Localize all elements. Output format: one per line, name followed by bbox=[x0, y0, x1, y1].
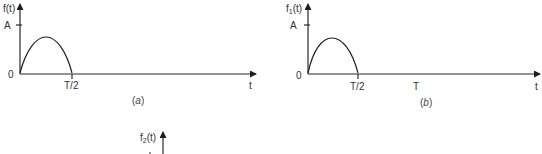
caption-a: (a) bbox=[132, 95, 144, 106]
ylabel-a: f(t) bbox=[3, 3, 15, 14]
plot-c-partial: f2(t) bbox=[140, 132, 163, 154]
plot-b: f1(t) A 0 T/2 T t (b) bbox=[286, 3, 540, 108]
ylabel-b: f1(t) bbox=[286, 3, 302, 15]
label-t-a: t bbox=[249, 80, 252, 91]
label-zero-a: 0 bbox=[8, 69, 14, 80]
curve-b bbox=[308, 38, 358, 73]
label-zero-b: 0 bbox=[296, 70, 302, 81]
label-A-b: A bbox=[290, 20, 297, 31]
curve-a bbox=[20, 37, 72, 73]
label-t-b: t bbox=[535, 81, 538, 92]
label-half-a: T/2 bbox=[64, 80, 79, 91]
ylabel-c: f2(t) bbox=[140, 132, 156, 144]
plot-a: f(t) A 0 T/2 t (a) bbox=[3, 3, 256, 106]
label-half-b: T/2 bbox=[350, 81, 365, 92]
label-T-b: T bbox=[413, 81, 419, 92]
label-A-a: A bbox=[4, 20, 11, 31]
figure: f(t) A 0 T/2 t (a) f1(t) A 0 T/2 T t (b)… bbox=[0, 0, 542, 154]
caption-b: (b) bbox=[420, 97, 432, 108]
